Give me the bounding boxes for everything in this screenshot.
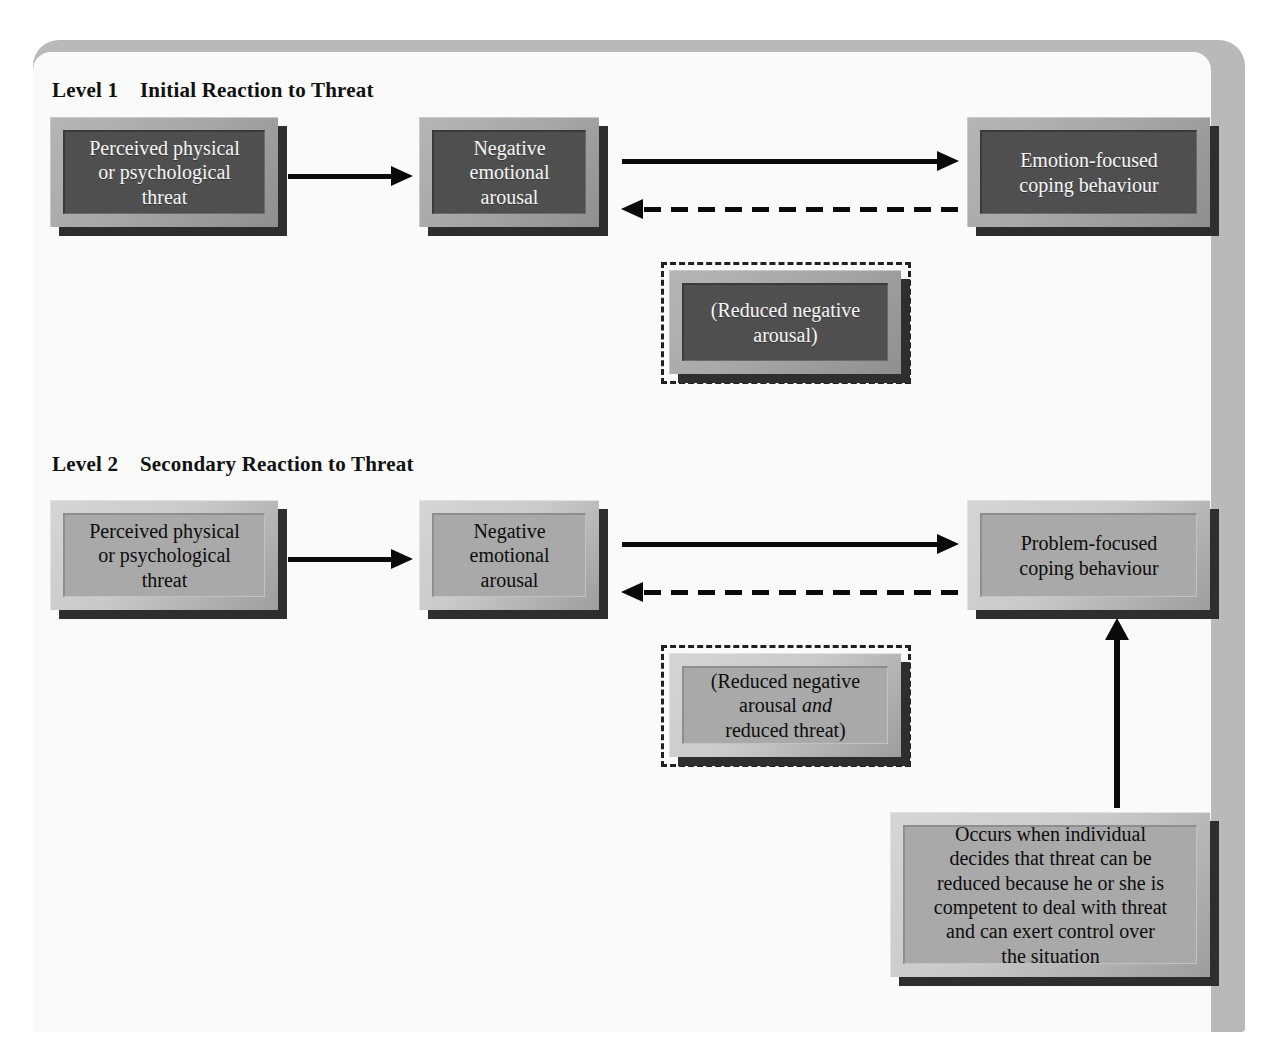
arrow-shaft [622, 159, 938, 164]
level-2-node-coping: Problem-focusedcoping behaviour [967, 500, 1210, 610]
arrow-head-up-icon [1105, 618, 1129, 640]
level-1-node-coping-label: Emotion-focusedcoping behaviour [980, 130, 1197, 214]
arrow-shaft-dashed [644, 207, 958, 212]
outcome-line-1: (Reduced negative [711, 670, 860, 692]
arrow-head-right-icon [391, 549, 413, 569]
level-2-node-condition-label: Occurs when individualdecides that threa… [903, 825, 1197, 964]
level-2-node-threat-label: Perceived physicalor psychologicalthreat [63, 513, 265, 597]
outcome-line-2-pre: arousal [739, 694, 802, 716]
level-1-node-threat-label: Perceived physicalor psychologicalthreat [63, 130, 265, 214]
level-1-heading: Level 1 Initial Reaction to Threat [52, 78, 374, 103]
level-2-heading: Level 2 Secondary Reaction to Threat [52, 452, 414, 477]
level-2-node-condition: Occurs when individualdecides that threa… [890, 812, 1210, 977]
level-1-node-arousal: Negativeemotionalarousal [419, 117, 599, 227]
level-2-node-outcome-label: (Reduced negative arousal and reduced th… [682, 666, 888, 744]
level-1-node-outcome-label: (Reduced negativearousal) [682, 283, 888, 361]
level-2-node-arousal: Negativeemotionalarousal [419, 500, 599, 610]
arrow-shaft [288, 557, 392, 562]
level-2-node-outcome: (Reduced negative arousal and reduced th… [669, 653, 901, 757]
outcome-line-3: reduced threat) [725, 719, 845, 741]
level-2-node-coping-label: Problem-focusedcoping behaviour [980, 513, 1197, 597]
arrow-head-right-icon [391, 166, 413, 186]
arrow-shaft [622, 542, 938, 547]
diagram-canvas: Level 1 Initial Reaction to Threat Perce… [0, 0, 1275, 1047]
level-1-node-outcome: (Reduced negativearousal) [669, 270, 901, 374]
level-1-node-threat: Perceived physicalor psychologicalthreat [50, 117, 278, 227]
arrow-head-left-icon [621, 582, 643, 602]
level-2-node-threat: Perceived physicalor psychologicalthreat [50, 500, 278, 610]
arrow-head-right-icon [937, 151, 959, 171]
level-2-node-arousal-label: Negativeemotionalarousal [432, 513, 586, 597]
level-2-node-outcome-outline: (Reduced negative arousal and reduced th… [661, 645, 911, 767]
arrow-shaft [1114, 638, 1120, 808]
arrow-head-right-icon [937, 534, 959, 554]
outcome-line-2-emphasis: and [802, 694, 832, 716]
arrow-shaft-dashed [644, 590, 958, 595]
level-1-node-outcome-outline: (Reduced negativearousal) [661, 262, 911, 384]
arrow-shaft [288, 174, 392, 179]
level-1-node-coping: Emotion-focusedcoping behaviour [967, 117, 1210, 227]
level-1-node-arousal-label: Negativeemotionalarousal [432, 130, 586, 214]
arrow-head-left-icon [621, 199, 643, 219]
